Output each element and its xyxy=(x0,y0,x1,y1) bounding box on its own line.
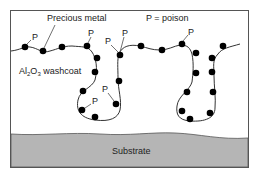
poison-marker: P xyxy=(32,32,38,42)
poison-marker: P xyxy=(88,28,94,38)
precious-metal-label: Precious metal xyxy=(47,13,107,23)
poison-marker: P xyxy=(92,96,98,106)
poison-marker: P xyxy=(102,84,108,94)
catalyst-poisoning-diagram: P P P P P P P Precious metal P = poison … xyxy=(0,0,258,178)
poison-marker: P xyxy=(105,36,111,46)
poison-marker: P xyxy=(188,27,194,37)
substrate-label: Substrate xyxy=(112,146,151,156)
poison-marker: P xyxy=(122,28,128,38)
poison-legend: P = poison xyxy=(146,13,189,23)
